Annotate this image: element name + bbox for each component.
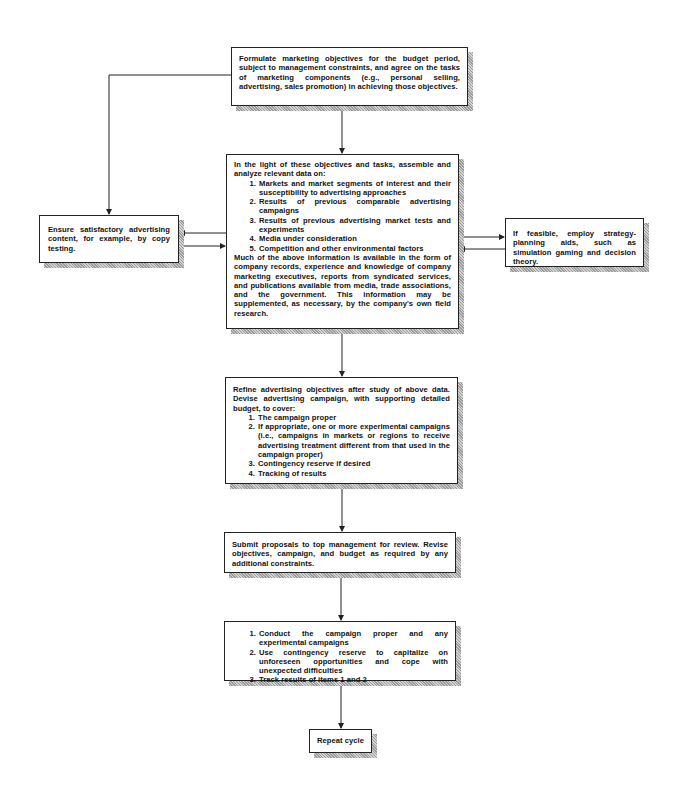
refine-objectives-intro: Refine advertising objectives after stud… — [233, 385, 450, 413]
list-item: Use contingency reserve to capitalize on… — [258, 648, 448, 676]
list-item: Track results of items 1 and 2 — [258, 675, 448, 684]
ensure-content-text: Ensure satisfactory advertising content,… — [48, 225, 170, 253]
analyze-data-list: Markets and market segments of interest … — [234, 179, 451, 253]
list-item: Media under consideration — [258, 234, 451, 243]
list-item: Contingency reserve if desired — [257, 459, 450, 468]
submit-proposals-box: Submit proposals to top management for r… — [224, 532, 456, 573]
list-item: The campaign proper — [257, 413, 450, 422]
submit-proposals-text: Submit proposals to top management for r… — [232, 540, 448, 568]
list-item: Results of previous comparable advertisi… — [258, 197, 451, 216]
conduct-campaign-box: Conduct the campaign proper and any expe… — [224, 621, 456, 681]
list-item: Markets and market segments of interest … — [258, 179, 451, 198]
formulate-objectives-text: Formulate marketing objectives for the b… — [239, 54, 460, 91]
repeat-cycle-box: Repeat cycle — [309, 729, 372, 753]
analyze-data-intro: In the light of these objectives and tas… — [234, 160, 451, 179]
conduct-campaign-list: Conduct the campaign proper and any expe… — [232, 629, 448, 685]
list-item: Tracking of results — [257, 469, 450, 478]
formulate-objectives-box: Formulate marketing objectives for the b… — [231, 47, 468, 106]
planning-aids-box: If feasible, employ strategy-planning ai… — [505, 218, 644, 267]
ensure-content-box: Ensure satisfactory advertising content,… — [39, 215, 179, 263]
refine-objectives-box: Refine advertising objectives after stud… — [225, 377, 458, 484]
list-item: If appropriate, one or more experimental… — [257, 422, 450, 459]
analyze-data-outro: Much of the above information is availab… — [234, 253, 451, 318]
repeat-cycle-text: Repeat cycle — [317, 736, 364, 745]
list-item: Results of previous advertising market t… — [258, 216, 451, 235]
list-item: Competition and other environmental fact… — [258, 244, 451, 253]
planning-aids-text: If feasible, employ strategy-planning ai… — [513, 229, 636, 266]
refine-objectives-list: The campaign proper If appropriate, one … — [233, 413, 450, 478]
analyze-data-box: In the light of these objectives and tas… — [226, 154, 459, 329]
list-item: Conduct the campaign proper and any expe… — [258, 629, 448, 648]
